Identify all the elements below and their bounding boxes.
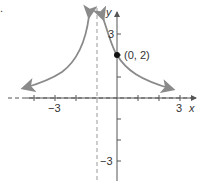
y-axis-label: y [105, 6, 113, 18]
point-label: (0, 2) [124, 49, 150, 61]
corner-mark: . [0, 2, 3, 14]
x-axis-label: x [188, 102, 195, 114]
x-tick-label-neg3: −3 [48, 102, 61, 114]
left-branch-curve [24, 16, 89, 88]
graph: . (0, 2) y x −3 3 3 −3 [0, 0, 210, 181]
y-tick-label-neg3: −3 [100, 155, 113, 167]
y-tick-label-3: 3 [108, 28, 114, 40]
point-0-2 [114, 52, 120, 58]
x-tick-label-3: 3 [176, 102, 182, 114]
